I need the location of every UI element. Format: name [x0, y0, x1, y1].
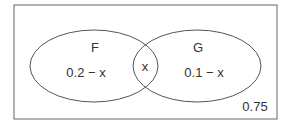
outside-value: 0.75 [242, 99, 267, 114]
intersection-value: x [142, 59, 149, 74]
set-f-only-value: 0.2 − x [66, 65, 106, 80]
set-g-label: G [193, 40, 203, 55]
venn-diagram: F 0.2 − x G 0.1 − x x 0.75 [0, 0, 287, 122]
set-f-label: F [91, 40, 99, 55]
set-g-only-value: 0.1 − x [184, 65, 224, 80]
